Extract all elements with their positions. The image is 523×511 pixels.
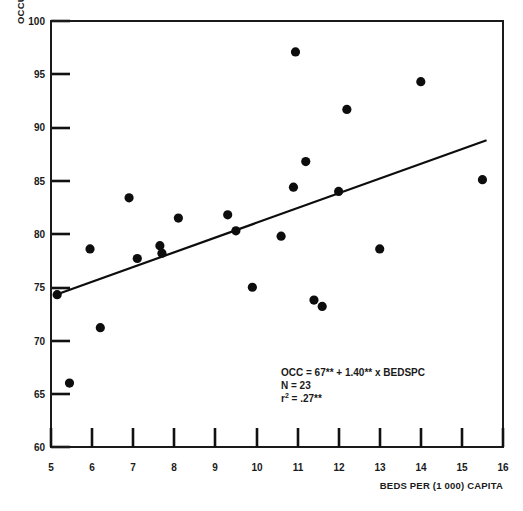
data-point [342,105,351,114]
data-point [309,295,318,304]
y-tick-label-75: 75 [34,282,46,293]
chart-svg: OCCUPANCY RATE 100 95 90 85 80 75 70 65 … [0,0,523,511]
data-point [157,249,166,258]
scatter-plot-figure: OCCUPANCY RATE 100 95 90 85 80 75 70 65 … [0,0,523,511]
y-axis-title: OCCUPANCY RATE [15,0,26,24]
data-point [289,183,298,192]
data-point [124,193,133,202]
x-tick-label-8: 8 [171,462,177,473]
y-tick-label-85: 85 [34,176,46,187]
x-tick-label-12: 12 [333,462,345,473]
data-point [231,226,240,235]
data-point [65,379,74,388]
annotation-equation: OCC = 67** + 1.40** x BEDSPC [281,367,425,378]
y-tick-label-80: 80 [34,229,46,240]
x-tick-label-7: 7 [130,462,136,473]
data-point [248,283,257,292]
x-axis-ticks [51,428,503,447]
data-point [318,302,327,311]
x-tick-label-9: 9 [212,462,218,473]
data-point [375,244,384,253]
data-point [53,290,62,299]
x-tick-label-10: 10 [251,462,263,473]
annotation-n: N = 23 [281,380,311,391]
data-point [301,157,310,166]
x-tick-label-11: 11 [293,462,304,473]
x-tick-label-13: 13 [374,462,386,473]
data-point [277,232,286,241]
regression-line [53,140,487,295]
y-tick-label-90: 90 [34,122,46,133]
y-tick-label-70: 70 [34,336,46,347]
data-point [334,187,343,196]
y-tick-label-95: 95 [34,69,46,80]
y-tick-label-65: 65 [34,389,46,400]
data-point [223,210,232,219]
x-tick-label-5: 5 [48,462,54,473]
y-tick-label-100: 100 [28,16,45,27]
annotation-r2: r2 = .27** [281,392,322,404]
data-point [416,77,425,86]
plot-frame [51,21,503,447]
data-point [478,175,487,184]
x-tick-label-14: 14 [415,462,427,473]
data-point [174,213,183,222]
data-point [85,244,94,253]
y-tick-label-60: 60 [34,442,46,453]
annotation-block: OCC = 67** + 1.40** x BEDSPC N = 23 r2 =… [281,367,425,404]
x-tick-label-15: 15 [456,462,468,473]
x-tick-label-6: 6 [89,462,95,473]
data-point [96,323,105,332]
x-axis-title: BEDS PER (1 000) CAPITA [380,480,503,491]
data-point [291,47,300,56]
annotation-r2-value: = .27** [289,393,322,404]
data-point [133,254,142,263]
x-tick-label-16: 16 [497,462,509,473]
